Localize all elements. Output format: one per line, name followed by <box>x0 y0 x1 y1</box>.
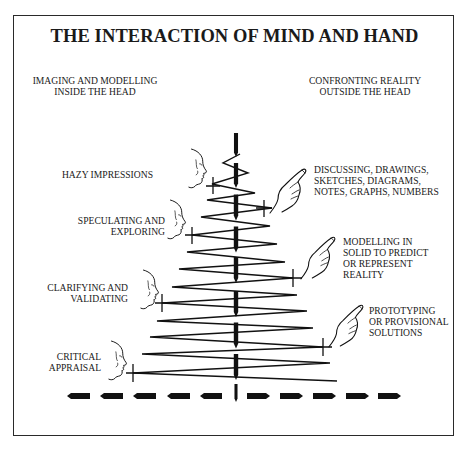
mind-hand-zigzag-diagram <box>0 0 469 449</box>
head-profile-icon <box>109 341 127 380</box>
head-profile-icon <box>189 149 207 188</box>
central-axis-arrow <box>234 133 238 402</box>
baseline-arrows-left <box>67 393 222 399</box>
baseline-arrows-right <box>247 393 401 399</box>
pointing-hand-icon <box>301 237 335 279</box>
pointing-hand-icon <box>270 169 306 213</box>
head-profile-icon <box>168 200 186 239</box>
pointing-hand-icon <box>329 305 363 347</box>
